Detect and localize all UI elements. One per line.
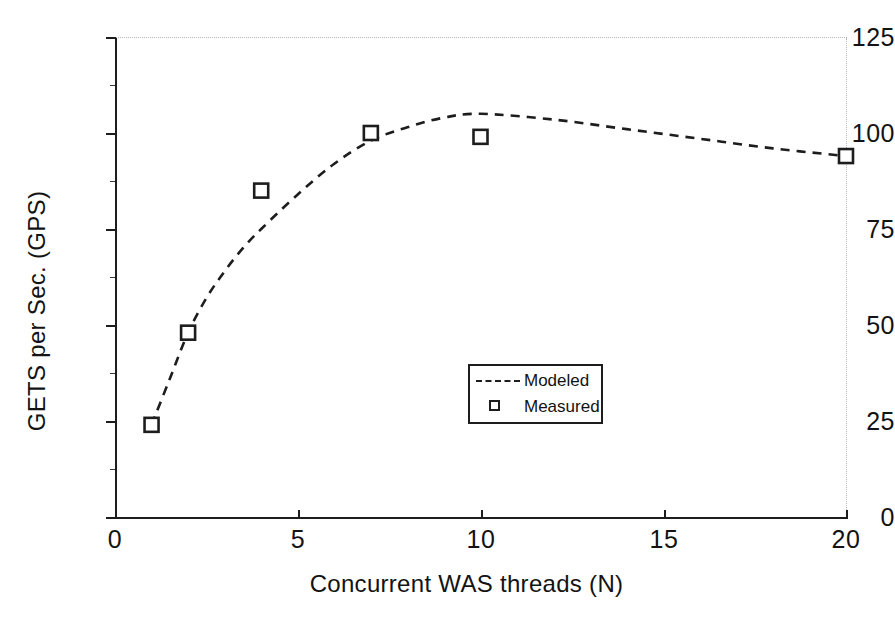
x-tick-label-15: 15 <box>624 525 704 554</box>
y-axis-title-text: GETS per Sec. (GPS) <box>23 190 51 430</box>
x-tick-10 <box>481 510 483 519</box>
y-tick-label-100: 100 <box>803 119 895 148</box>
y-tick-75 <box>106 229 115 231</box>
y-tick-50 <box>106 325 115 327</box>
x-tick-15 <box>664 510 666 519</box>
y-tick-125 <box>106 37 115 39</box>
y-tick-label-50: 50 <box>803 311 895 340</box>
dashed-line-icon <box>470 368 524 394</box>
x-tick-label-10: 10 <box>441 525 521 554</box>
measured-data-point <box>181 326 195 340</box>
x-tick-5 <box>298 510 300 519</box>
x-tick-label-5: 5 <box>258 525 338 554</box>
chart-figure: GETS per Sec. (GPS) 125 100 75 50 25 0 0… <box>0 0 895 621</box>
legend-box: Modeled Measured <box>468 364 603 424</box>
y-tick-minor <box>110 277 115 278</box>
legend-label-modeled: Modeled <box>524 371 589 391</box>
x-axis-title: Concurrent WAS threads (N) <box>0 570 895 598</box>
measured-data-point <box>474 130 488 144</box>
y-tick-minor <box>110 373 115 374</box>
plot-frame-right <box>846 38 847 518</box>
y-tick-100 <box>106 133 115 135</box>
measured-data-point <box>254 184 268 198</box>
x-tick-label-20: 20 <box>806 525 886 554</box>
x-tick-label-0: 0 <box>75 525 155 554</box>
y-tick-label-75: 75 <box>803 215 895 244</box>
x-axis-title-text: Concurrent WAS threads (N) <box>272 570 624 598</box>
x-tick-0 <box>115 510 117 519</box>
y-axis-line <box>115 37 117 519</box>
x-tick-20 <box>846 510 848 519</box>
y-tick-label-125: 125 <box>803 23 895 52</box>
plot-frame-top <box>116 37 847 38</box>
y-tick-minor <box>110 469 115 470</box>
measured-data-point <box>145 418 159 432</box>
legend-item-measured: Measured <box>470 394 605 420</box>
y-tick-minor <box>110 181 115 182</box>
y-tick-25 <box>106 421 115 423</box>
open-square-icon <box>470 394 524 420</box>
legend-label-measured: Measured <box>524 397 600 417</box>
measured-data-point <box>364 126 378 140</box>
y-tick-0 <box>106 517 115 519</box>
y-axis-title: GETS per Sec. (GPS) <box>17 0 57 621</box>
y-tick-label-25: 25 <box>803 407 895 436</box>
legend-item-modeled: Modeled <box>470 368 605 394</box>
y-tick-minor <box>110 85 115 86</box>
